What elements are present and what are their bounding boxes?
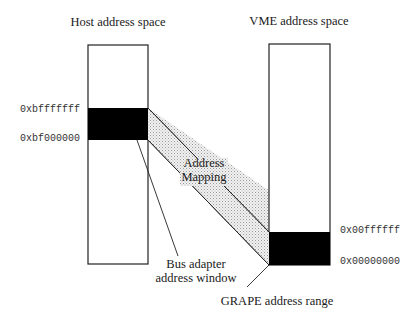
grape-leader-line	[247, 265, 269, 287]
host-address-space-title: Host address space	[70, 15, 166, 29]
vme-bottom-address: 0x00000000	[340, 256, 400, 267]
address-mapping-label-line1: Address	[184, 156, 225, 170]
vme-top-address: 0x00ffffff	[340, 225, 400, 236]
vme-address-space-box	[269, 44, 330, 265]
bus-adapter-window-fill	[88, 108, 148, 140]
host-top-address: 0xbfffffff	[20, 104, 80, 115]
vme-address-space-title: VME address space	[249, 14, 349, 28]
address-mapping-label-line2: Mapping	[181, 170, 227, 184]
host-bottom-address: 0xbf000000	[20, 133, 80, 144]
grape-address-range-label: GRAPE address range	[221, 294, 334, 308]
bus-adapter-label-line1: Bus adapter	[166, 257, 226, 271]
bus-adapter-label-line2: address window	[156, 271, 237, 285]
host-address-space-box	[88, 45, 148, 264]
grape-range-fill	[269, 232, 330, 265]
address-mapping-diagram: Host address space VME address space 0xb…	[0, 0, 415, 324]
